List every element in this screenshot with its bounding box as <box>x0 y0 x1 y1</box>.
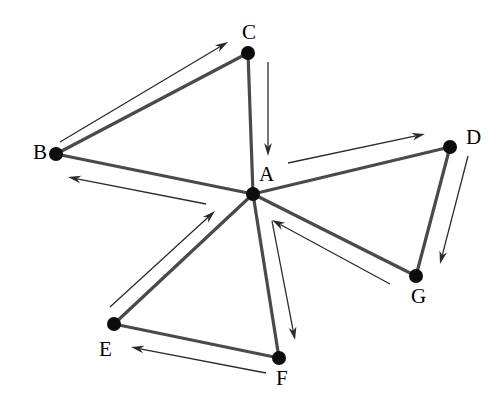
arrow-shaft <box>77 179 206 204</box>
edge-c-a <box>248 53 253 194</box>
edge-e-f <box>114 324 279 358</box>
arrow-g-to-a <box>272 220 390 284</box>
edge-b-c <box>56 53 248 154</box>
edges-group <box>56 53 450 358</box>
node-label-c: C <box>242 22 256 43</box>
node-e <box>107 317 121 331</box>
node-b <box>49 147 63 161</box>
node-c <box>241 46 255 60</box>
node-label-g: G <box>411 286 426 307</box>
edge-a-e <box>114 194 253 324</box>
arrows-group <box>60 42 468 373</box>
arrow-shaft <box>272 221 293 331</box>
node-g <box>409 269 423 283</box>
arrow-c-to-a <box>264 62 272 156</box>
arrow-head <box>215 42 228 52</box>
arrow-e-to-a <box>110 211 215 307</box>
node-label-e: E <box>99 339 112 360</box>
node-a <box>246 187 260 201</box>
node-d <box>443 140 457 154</box>
graph-svg <box>0 0 502 404</box>
arrow-a-to-f <box>272 221 296 340</box>
arrow-b-to-c <box>60 42 228 142</box>
arrow-shaft <box>110 217 208 307</box>
graph-diagram-canvas: ABCDEFG <box>0 0 502 404</box>
edge-f-a <box>253 194 279 358</box>
arrow-shaft <box>60 47 220 142</box>
node-label-f: F <box>276 368 288 389</box>
edge-b-a <box>56 154 253 194</box>
edge-g-a <box>253 194 416 276</box>
node-f <box>272 351 286 365</box>
node-label-b: B <box>33 142 47 163</box>
arrow-shaft <box>442 156 468 255</box>
nodes-group <box>49 46 457 365</box>
edge-d-g <box>416 147 450 276</box>
node-label-a: A <box>259 164 274 185</box>
node-label-d: D <box>466 127 481 148</box>
edge-a-d <box>253 147 450 194</box>
